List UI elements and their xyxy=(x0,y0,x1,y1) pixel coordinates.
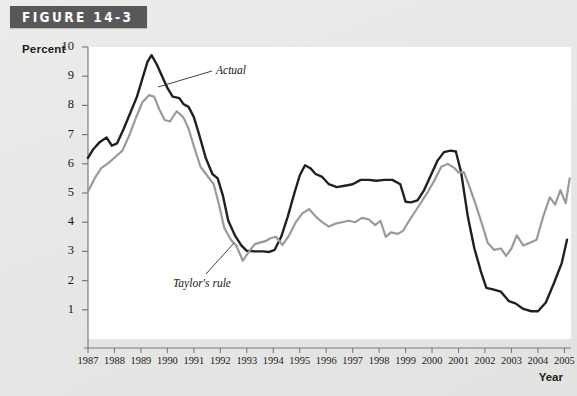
annotation-leader-lines xyxy=(158,71,234,274)
tick-marks xyxy=(82,47,564,353)
leader-line-taylors-rule xyxy=(206,243,234,274)
data-series-lines xyxy=(88,55,570,311)
figure-page: FIGURE 14-3 Percent Year Actual Taylor's… xyxy=(0,0,577,396)
leader-line-actual xyxy=(158,71,212,87)
series-line-actual xyxy=(88,55,567,311)
series-line-taylor-s-rule xyxy=(88,95,570,261)
axis-lines xyxy=(84,47,571,348)
chart-canvas xyxy=(0,0,577,396)
